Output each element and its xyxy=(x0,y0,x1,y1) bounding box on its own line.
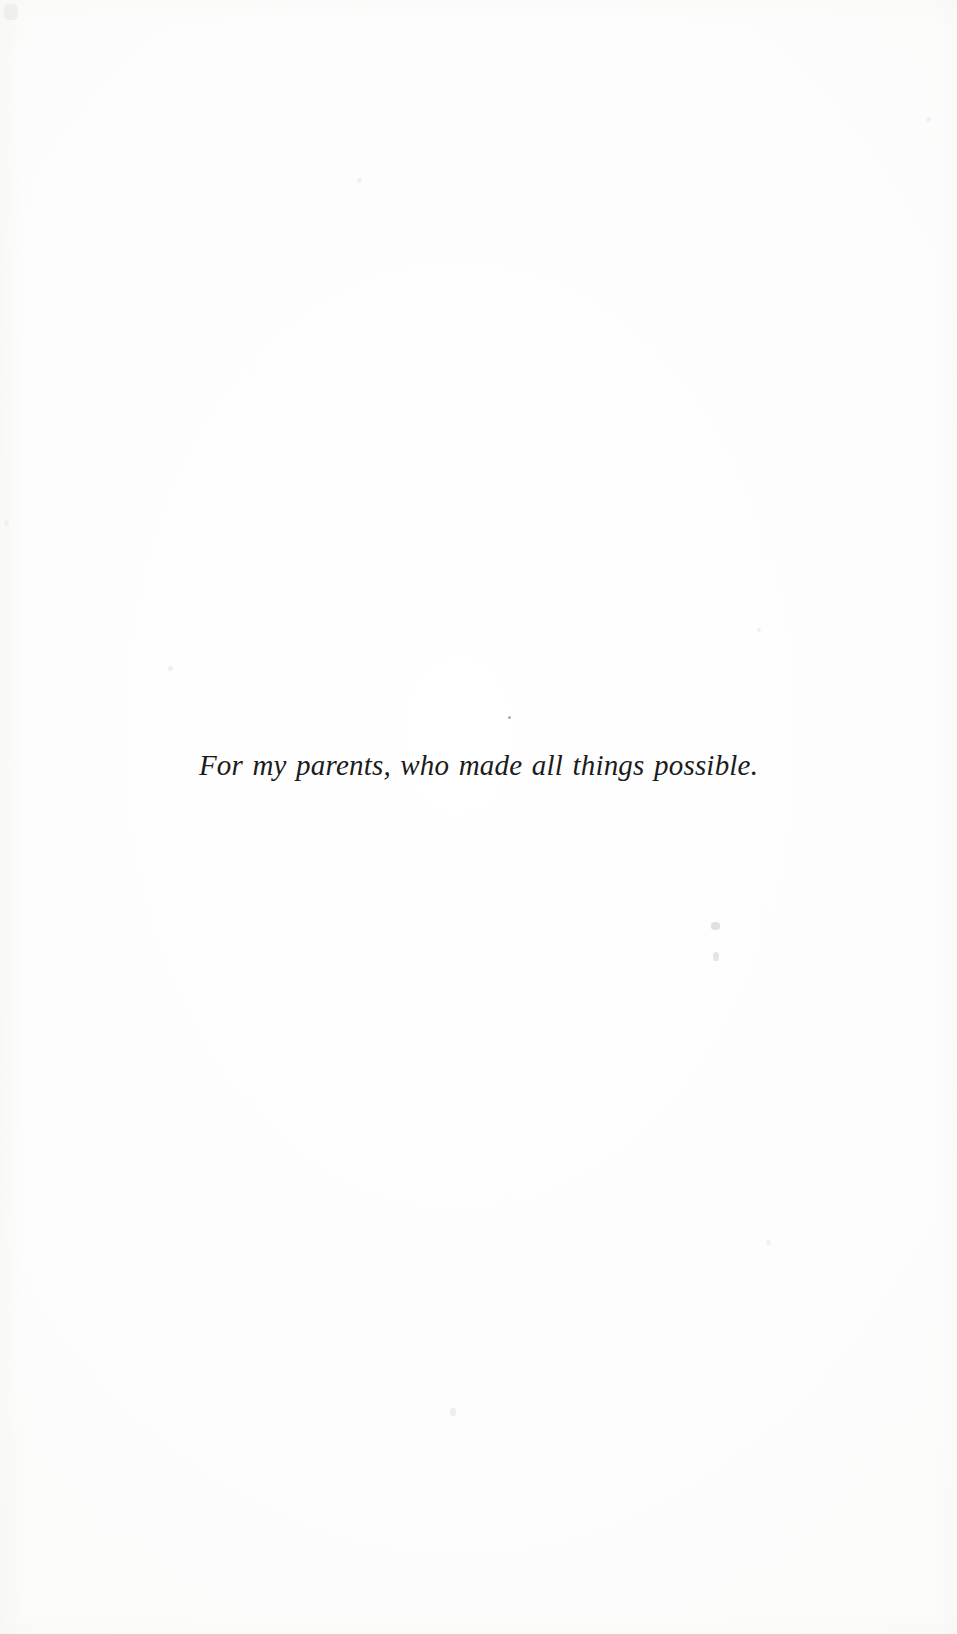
scan-speck-top-left-icon xyxy=(4,4,18,20)
scan-speck-lower-right-lower-icon xyxy=(713,952,719,961)
scan-speck-top-center-icon xyxy=(357,178,362,183)
scan-speck-left-lower-icon xyxy=(4,520,9,526)
dedication-page: For my parents, who made all things poss… xyxy=(0,0,957,1634)
dedication-block: For my parents, who made all things poss… xyxy=(0,745,957,785)
page-edge-shading xyxy=(0,0,957,1634)
scan-speck-lower-center-icon xyxy=(450,1408,456,1416)
scan-speck-lower-right-upper-icon xyxy=(711,922,720,930)
scan-speck-mid-right-icon xyxy=(757,628,761,632)
scan-speck-right-lower-icon xyxy=(766,1240,771,1245)
scan-speck-mid-left-icon xyxy=(168,666,173,671)
paper-tone-overlay xyxy=(0,0,957,1634)
dedication-text: For my parents, who made all things poss… xyxy=(199,745,758,785)
ink-dot-above-dedication-icon xyxy=(508,716,511,719)
scan-speck-right-upper-icon xyxy=(926,117,931,122)
